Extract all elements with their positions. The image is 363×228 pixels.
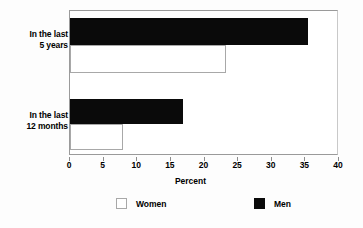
x-tick-label-25: 25 [225, 160, 249, 170]
category-label-5-years: In the last 5 years [2, 29, 68, 50]
x-axis-title: Percent [0, 176, 363, 186]
x-tick-label-35: 35 [292, 160, 316, 170]
legend-item-women: Women [116, 198, 167, 209]
category-label-5-years-line1: In the last [2, 29, 68, 40]
legend-label-women: Women [136, 199, 167, 209]
bar-men-12-months [70, 99, 183, 124]
bar-chart: In the last 5 years In the last 12 month… [0, 0, 363, 228]
legend-swatch-men-icon [254, 198, 265, 209]
legend-item-men: Men [254, 198, 291, 209]
chart-legend: Women Men [0, 198, 363, 220]
x-tick-label-20: 20 [192, 160, 216, 170]
bar-women-5-years [70, 45, 226, 73]
x-tick-label-10: 10 [124, 160, 148, 170]
legend-swatch-women-icon [116, 198, 127, 209]
legend-label-men: Men [274, 199, 291, 209]
bar-men-5-years [70, 18, 308, 45]
category-label-12-months: In the last 12 months [2, 110, 68, 131]
x-tick-label-0: 0 [57, 160, 81, 170]
bar-women-12-months [70, 124, 123, 150]
plot-area [69, 10, 338, 155]
x-tick-label-40: 40 [326, 160, 350, 170]
category-label-12-months-line2: 12 months [2, 121, 68, 132]
x-tick-label-15: 15 [158, 160, 182, 170]
category-label-5-years-line2: 5 years [2, 40, 68, 51]
category-label-12-months-line1: In the last [2, 110, 68, 121]
x-tick-label-5: 5 [91, 160, 115, 170]
x-tick-label-30: 30 [259, 160, 283, 170]
